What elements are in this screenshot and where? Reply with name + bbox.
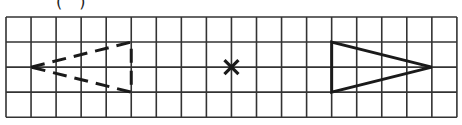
grid-diagram <box>0 0 462 125</box>
